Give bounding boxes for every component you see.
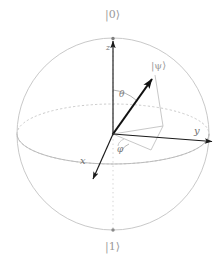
projection-radius-line (113, 126, 163, 134)
label-axis-z: z (106, 44, 110, 52)
south-pole-marker (111, 228, 114, 231)
axis-x-line (93, 134, 113, 179)
projection-drop-line (155, 75, 163, 126)
north-pole-marker (111, 37, 114, 40)
origin-point (112, 133, 114, 135)
theta-angle-arc (113, 90, 136, 100)
label-ket-zero: |0⟩ (105, 9, 120, 20)
label-axis-x: x (80, 156, 86, 166)
label-angle-phi: φ (117, 145, 123, 154)
label-angle-theta: θ (119, 90, 124, 99)
bloch-sphere-figure: |0⟩ |1⟩ |ψ⟩ z y x θ φ (0, 0, 224, 268)
label-ket-psi: |ψ⟩ (151, 61, 166, 71)
bloch-sphere-svg (0, 0, 224, 268)
state-vector-line (113, 79, 152, 134)
label-ket-one: |1⟩ (105, 241, 120, 252)
label-axis-y: y (194, 126, 200, 136)
